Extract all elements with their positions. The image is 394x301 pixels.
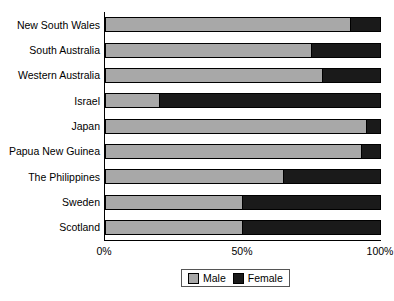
- bar-segment-male: [105, 43, 312, 58]
- category-label: The Philippines: [0, 171, 100, 182]
- axis-tick-label: 50%: [231, 245, 252, 257]
- stacked-bar-chart: New South WalesSouth AustraliaWestern Au…: [0, 0, 394, 301]
- bar-segment-female: [159, 93, 381, 108]
- axis-tick-label: 0%: [96, 245, 111, 257]
- bar-segment-male: [105, 17, 351, 32]
- bar-segment-male: [105, 119, 367, 134]
- axis-tick-label: 100%: [367, 245, 394, 257]
- bar-row: [105, 169, 381, 184]
- category-label: Sweden: [0, 197, 100, 208]
- bar-row: [105, 43, 381, 58]
- bar-segment-female: [322, 68, 381, 83]
- bar-segment-female: [350, 17, 381, 32]
- bar-segment-female: [311, 43, 381, 58]
- category-label: South Australia: [0, 45, 100, 56]
- category-label: Papua New Guinea: [0, 146, 100, 157]
- chart-legend: MaleFemale: [181, 269, 290, 287]
- category-label: Scotland: [0, 222, 100, 233]
- bar-segment-male: [105, 169, 284, 184]
- bar-segment-female: [242, 195, 381, 210]
- category-axis: New South WalesSouth AustraliaWestern Au…: [0, 12, 100, 240]
- bar-segment-female: [242, 220, 381, 235]
- bar-row: [105, 17, 381, 32]
- bar-row: [105, 119, 381, 134]
- female-swatch-icon: [233, 273, 244, 284]
- bar-segment-male: [105, 195, 243, 210]
- legend-label: Male: [203, 272, 226, 284]
- bar-segment-male: [105, 220, 243, 235]
- male-swatch-icon: [188, 273, 199, 284]
- bar-row: [105, 93, 381, 108]
- bar-row: [105, 68, 381, 83]
- legend-entry: Female: [233, 272, 283, 284]
- category-label: Israel: [0, 95, 100, 106]
- legend-label: Female: [248, 272, 283, 284]
- category-label: Western Australia: [0, 70, 100, 81]
- bar-segment-male: [105, 68, 323, 83]
- bar-row: [105, 195, 381, 210]
- category-label: Japan: [0, 121, 100, 132]
- bar-segment-male: [105, 93, 160, 108]
- plot-area: [104, 12, 381, 241]
- bar-segment-male: [105, 144, 362, 159]
- category-label: New South Wales: [0, 19, 100, 30]
- bar-segment-female: [366, 119, 381, 134]
- bar-row: [105, 220, 381, 235]
- bar-segment-female: [283, 169, 381, 184]
- bar-row: [105, 144, 381, 159]
- bar-segment-female: [361, 144, 381, 159]
- legend-entry: Male: [188, 272, 226, 284]
